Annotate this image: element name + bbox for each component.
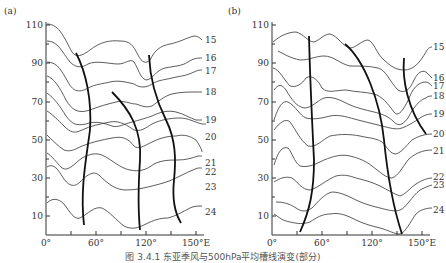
svg-text:23: 23 xyxy=(205,182,217,192)
panel-b-ytick: 10 xyxy=(258,211,270,221)
panel-a-xtick: 150°E xyxy=(182,238,210,248)
svg-text:19: 19 xyxy=(433,109,445,119)
panel-a-ytick: 10 xyxy=(32,211,44,221)
panel-a-x-ticks xyxy=(71,231,196,235)
contour-24 xyxy=(47,199,202,228)
panel-a-curve-labels: 15 16 17 18 19 20 21 22 23 24 xyxy=(205,35,217,217)
panel-a-xtick: 0° xyxy=(41,238,51,248)
svg-text:23: 23 xyxy=(433,180,445,190)
trough-line-a3 xyxy=(149,55,181,223)
figure-caption: 图 3.4.1 东亚季风与500hPa平均槽线演变(部分) xyxy=(0,250,446,263)
contour-23 xyxy=(47,166,202,190)
panel-a-xtick: 60° xyxy=(88,238,104,248)
contour-16 xyxy=(47,41,202,80)
panel-b-xtick: 60° xyxy=(314,238,330,248)
contour-24 xyxy=(274,208,432,234)
svg-text:22: 22 xyxy=(205,167,216,177)
contour-21 xyxy=(274,148,432,178)
contour-17 xyxy=(273,68,432,114)
panel-b-curve-labels: 15 16 17 18 19 20 21 22 23 24 xyxy=(433,42,445,215)
panel-b-ytick: 50 xyxy=(258,135,270,145)
svg-text:15: 15 xyxy=(433,42,445,52)
svg-text:17: 17 xyxy=(205,66,217,76)
panel-a-xtick: 120° xyxy=(135,238,157,248)
panel-a-ytick: 70 xyxy=(32,97,44,107)
panel-a-contours xyxy=(47,24,206,228)
contour-17 xyxy=(47,62,202,91)
trough-line-a1 xyxy=(76,53,90,225)
contour-21 xyxy=(47,135,202,152)
panel-b-xtick: 150°E xyxy=(408,238,436,248)
panel-a-ytick: 50 xyxy=(32,135,44,145)
svg-text:16: 16 xyxy=(205,53,217,63)
panel-a-ytick: 110 xyxy=(26,20,43,30)
svg-text:20: 20 xyxy=(433,129,445,139)
contour-22 xyxy=(47,153,202,171)
panel-b: (b) 110 90 70 50 30 10 0° 60° 120° 150°E xyxy=(228,6,445,248)
panel-a-label: (a) xyxy=(4,6,16,16)
panel-b-ytick: 90 xyxy=(258,58,270,68)
panel-a-ytick: 30 xyxy=(32,173,44,183)
panel-b-ytick: 70 xyxy=(258,97,270,107)
contour-16 xyxy=(278,51,432,92)
panel-b-y-ticks xyxy=(272,25,276,216)
panel-b-ytick: 30 xyxy=(258,173,270,183)
svg-text:21: 21 xyxy=(433,146,444,156)
panel-b-xtick: 0° xyxy=(267,238,277,248)
panel-a-ytick: 90 xyxy=(32,58,44,68)
trough-line-a2 xyxy=(112,92,140,230)
panel-b-xtick: 120° xyxy=(361,238,383,248)
panel-b-contours xyxy=(273,32,432,234)
contour-22 xyxy=(274,175,432,196)
svg-text:19: 19 xyxy=(205,115,217,125)
contour-23 xyxy=(276,185,432,211)
svg-text:15: 15 xyxy=(205,35,217,45)
svg-text:24: 24 xyxy=(205,207,217,217)
panel-b-label: (b) xyxy=(228,6,241,16)
svg-text:18: 18 xyxy=(205,87,217,97)
svg-text:17: 17 xyxy=(433,81,445,91)
trough-line-b1 xyxy=(300,36,314,232)
panel-a: (a) 110 90 70 50 30 10 0° 60° 120° 150°E xyxy=(4,6,217,248)
panel-a-y-ticks xyxy=(46,25,50,216)
svg-text:20: 20 xyxy=(205,132,217,142)
svg-text:18: 18 xyxy=(433,91,445,101)
panel-b-ytick: 110 xyxy=(252,20,269,30)
contour-15 xyxy=(47,24,202,62)
contour-19 xyxy=(47,93,202,127)
svg-text:24: 24 xyxy=(433,205,445,215)
